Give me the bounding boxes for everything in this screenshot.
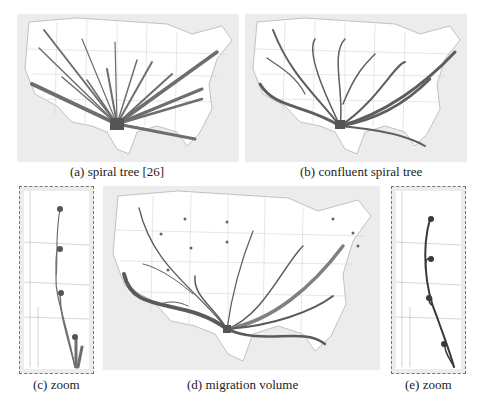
caption-b: (b) confluent spiral tree xyxy=(300,164,422,180)
caption-c: (c) zoom xyxy=(33,377,80,393)
panel-b-confluent-spiral-tree xyxy=(245,14,467,162)
zoom-flow-e xyxy=(392,187,465,373)
caption-e: (e) zoom xyxy=(405,377,452,393)
us-map-flow-d xyxy=(103,186,380,370)
panel-c-zoom xyxy=(19,186,94,374)
panel-a-spiral-tree xyxy=(17,14,239,162)
panel-d-migration-volume xyxy=(103,186,380,370)
zoom-flow-c xyxy=(20,187,93,373)
panel-e-zoom xyxy=(391,186,466,374)
caption-a: (a) spiral tree [26] xyxy=(70,164,164,180)
caption-d: (d) migration volume xyxy=(187,377,298,393)
us-map-flow-b xyxy=(245,14,467,162)
us-map-flow-a xyxy=(17,14,239,162)
